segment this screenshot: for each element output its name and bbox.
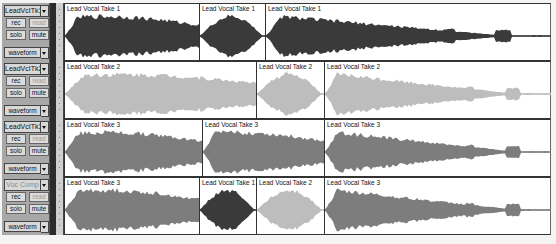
audio-region[interactable]: Lead Vocal Take 2 xyxy=(64,62,256,118)
track-name-button[interactable]: LeadVcITk1 xyxy=(4,5,41,17)
region-name: Lead Vocal Take 3 xyxy=(205,121,258,128)
automation-read-button[interactable]: read xyxy=(29,76,49,86)
track-view-selector[interactable]: waveform xyxy=(4,47,41,58)
mute-button[interactable]: mute xyxy=(29,30,49,40)
solo-button[interactable]: solo xyxy=(6,204,26,214)
rec-button[interactable]: rec xyxy=(6,18,26,28)
mute-button[interactable]: mute xyxy=(29,146,49,156)
waveform-graphic xyxy=(200,178,256,234)
region-name: Lead Vocal Take 1 xyxy=(202,179,255,186)
automation-read-button[interactable]: read xyxy=(29,134,49,144)
waveform-graphic xyxy=(65,62,256,118)
waveform-graphic xyxy=(257,62,324,118)
region-name: Lead Vocal Take 2 xyxy=(259,179,312,186)
audio-region[interactable]: Lead Vocal Take 1 xyxy=(64,4,199,60)
waveform-graphic xyxy=(325,178,551,234)
solo-button[interactable]: solo xyxy=(6,146,26,156)
region-name: Lead Vocal Take 2 xyxy=(259,63,312,70)
automation-read-button[interactable]: read xyxy=(29,192,49,202)
waveform-graphic xyxy=(257,178,324,234)
track-playlist-lane[interactable]: Lead Vocal Take 2Lead Vocal Take 2Lead V… xyxy=(64,61,551,119)
track-name-dropdown-arrow-icon[interactable] xyxy=(41,5,49,17)
track-name-button[interactable]: Voc Comp xyxy=(4,179,41,191)
track-view-selector[interactable]: waveform xyxy=(4,163,41,174)
audio-region[interactable]: Lead Vocal Take 2 xyxy=(256,62,324,118)
audio-region[interactable]: Lead Vocal Take 2 xyxy=(256,178,324,234)
audio-region[interactable]: Lead Vocal Take 3 xyxy=(64,120,202,176)
audio-region[interactable]: Lead Vocal Take 3 xyxy=(324,178,551,234)
track-controls: LeadVcITk3 rec read solo mute waveform xyxy=(2,119,50,177)
audio-region[interactable]: Lead Vocal Take 3 xyxy=(324,120,551,176)
region-name: Lead Vocal Take 3 xyxy=(327,121,380,128)
region-name: Lead Vocal Take 3 xyxy=(67,179,120,186)
region-name: Lead Vocal Take 2 xyxy=(327,63,380,70)
waveform-graphic xyxy=(325,62,551,118)
track-view-dropdown-arrow-icon[interactable] xyxy=(41,221,49,233)
waveform-graphic xyxy=(325,120,551,176)
audio-region[interactable]: Lead Vocal Take 2 xyxy=(324,62,551,118)
waveform-graphic xyxy=(65,4,199,60)
track-playlist-lane[interactable]: Lead Vocal Take 1Lead Vocal Take 1Lead V… xyxy=(64,3,551,61)
region-name: Lead Vocal Take 1 xyxy=(202,5,255,12)
waveform-graphic xyxy=(65,178,199,234)
track-controls: Voc Comp rec read solo mute waveform xyxy=(2,177,50,235)
track-2: LeadVcITk2 rec read solo mute waveform L… xyxy=(0,61,553,119)
track-view-dropdown-arrow-icon[interactable] xyxy=(41,163,49,175)
track-playlist-lane[interactable]: Lead Vocal Take 3Lead Vocal Take 1Lead V… xyxy=(64,177,551,235)
track-name-dropdown-arrow-icon[interactable] xyxy=(41,121,49,133)
track-view-selector[interactable]: waveform xyxy=(4,221,41,232)
audio-region[interactable]: Lead Vocal Take 3 xyxy=(202,120,324,176)
region-name: Lead Vocal Take 1 xyxy=(268,5,321,12)
rec-button[interactable]: rec xyxy=(6,192,26,202)
edit-window: LeadVcITk1 rec read solo mute waveform L… xyxy=(0,3,553,238)
track-playlist-lane[interactable]: Lead Vocal Take 3Lead Vocal Take 3Lead V… xyxy=(64,119,551,177)
waveform-scale-ruler xyxy=(56,3,64,61)
audio-region[interactable]: Lead Vocal Take 3 xyxy=(64,178,199,234)
track-name-dropdown-arrow-icon[interactable] xyxy=(41,179,49,191)
rec-button[interactable]: rec xyxy=(6,134,26,144)
waveform-graphic xyxy=(200,4,265,60)
waveform-graphic xyxy=(266,4,551,60)
track-view-dropdown-arrow-icon[interactable] xyxy=(41,47,49,59)
automation-read-button[interactable]: read xyxy=(29,18,49,28)
region-name: Lead Vocal Take 3 xyxy=(327,179,380,186)
audio-region[interactable]: Lead Vocal Take 1 xyxy=(199,4,265,60)
audio-region[interactable]: Lead Vocal Take 1 xyxy=(265,4,551,60)
track-view-dropdown-arrow-icon[interactable] xyxy=(41,105,49,117)
waveform-scale-ruler xyxy=(56,119,64,177)
solo-button[interactable]: solo xyxy=(6,88,26,98)
region-name: Lead Vocal Take 3 xyxy=(67,121,120,128)
track-name-button[interactable]: LeadVcITk3 xyxy=(4,121,41,133)
track-view-selector[interactable]: waveform xyxy=(4,105,41,116)
region-name: Lead Vocal Take 1 xyxy=(67,5,120,12)
mute-button[interactable]: mute xyxy=(29,204,49,214)
track-name-button[interactable]: LeadVcITk2 xyxy=(4,63,41,75)
waveform-scale-ruler xyxy=(56,177,64,235)
mute-button[interactable]: mute xyxy=(29,88,49,98)
track-controls: LeadVcITk1 rec read solo mute waveform xyxy=(2,3,50,61)
track-name-dropdown-arrow-icon[interactable] xyxy=(41,63,49,75)
track-3: LeadVcITk3 rec read solo mute waveform L… xyxy=(0,119,553,177)
track-4-comp: Voc Comp rec read solo mute waveform Lea… xyxy=(0,177,553,235)
region-name: Lead Vocal Take 2 xyxy=(67,63,120,70)
track-1: LeadVcITk1 rec read solo mute waveform L… xyxy=(0,3,553,61)
rec-button[interactable]: rec xyxy=(6,76,26,86)
waveform-scale-ruler xyxy=(56,61,64,119)
solo-button[interactable]: solo xyxy=(6,30,26,40)
track-controls: LeadVcITk2 rec read solo mute waveform xyxy=(2,61,50,119)
audio-region[interactable]: Lead Vocal Take 1 xyxy=(199,178,256,234)
waveform-graphic xyxy=(65,120,202,176)
waveform-graphic xyxy=(203,120,324,176)
